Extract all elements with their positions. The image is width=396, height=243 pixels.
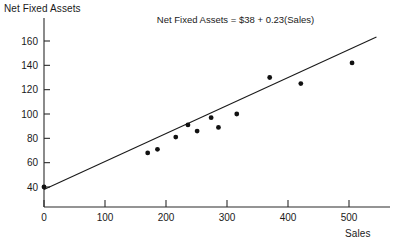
y-tick-label: 60 (27, 157, 39, 168)
data-point (216, 125, 221, 130)
x-tick-group: 0100200300400500 (41, 200, 358, 223)
y-tick-group: 406080100120140160 (21, 36, 50, 193)
chart-container: Net Fixed Assets Sales 40608010012014016… (0, 0, 396, 243)
y-tick-label: 160 (21, 36, 38, 47)
scatter-plot-svg: 406080100120140160 0100200300400500 Net … (0, 0, 396, 243)
x-tick-label: 200 (158, 212, 175, 223)
data-point (173, 135, 178, 140)
data-point (267, 75, 272, 80)
equation-annotation-group: Net Fixed Assets = $38 + 0.23(Sales) (157, 14, 314, 25)
data-point (234, 112, 239, 117)
data-point (195, 129, 200, 134)
data-point (298, 81, 303, 86)
y-tick-label: 140 (21, 60, 38, 71)
x-tick-label: 300 (219, 212, 236, 223)
regression-line (44, 37, 376, 190)
regression-line-group (44, 37, 376, 190)
x-tick-label: 500 (341, 212, 358, 223)
data-point (209, 115, 214, 120)
data-point (145, 151, 150, 156)
y-tick-label: 40 (27, 182, 39, 193)
y-tick-label: 100 (21, 109, 38, 120)
x-tick-label: 0 (41, 212, 47, 223)
y-tick-label: 120 (21, 84, 38, 95)
data-point (155, 147, 160, 152)
data-point (350, 61, 355, 66)
x-tick-label: 400 (280, 212, 297, 223)
y-tick-label: 80 (27, 133, 39, 144)
x-tick-label: 100 (97, 212, 114, 223)
regression-equation-label: Net Fixed Assets = $38 + 0.23(Sales) (157, 14, 314, 25)
data-point (186, 123, 191, 128)
data-point (42, 185, 47, 190)
axis-group (44, 18, 390, 207)
data-points-group (42, 61, 355, 190)
